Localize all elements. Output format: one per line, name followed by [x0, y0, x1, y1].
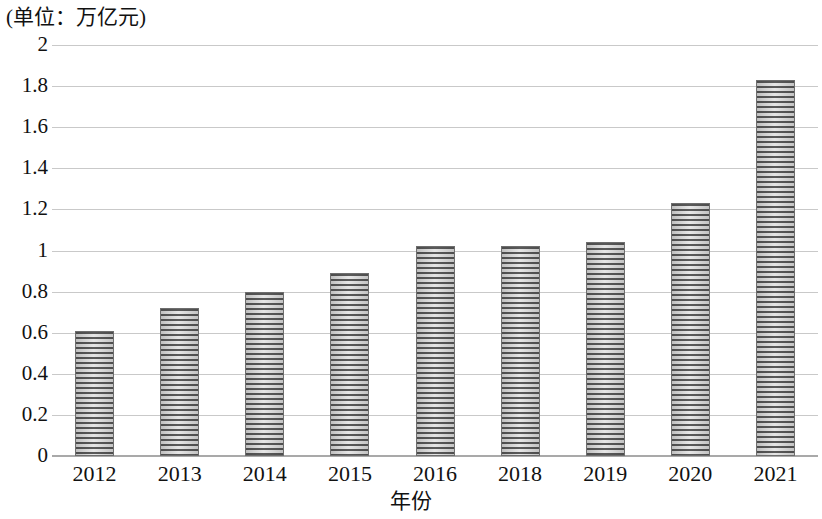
y-tick-label: 1.2: [2, 198, 48, 219]
bar-2015: [330, 273, 369, 456]
y-tick-label: 0.4: [2, 363, 48, 384]
y-tick-label: 2: [2, 34, 48, 55]
x-tick-label-2012: 2012: [55, 459, 135, 489]
y-tick-label: 0.8: [2, 281, 48, 302]
bar-2019: [586, 242, 625, 456]
y-tick-label: 1.8: [2, 75, 48, 96]
x-tick-label-2015: 2015: [310, 459, 390, 489]
y-tick-label: 1: [2, 240, 48, 261]
bar-2014: [245, 292, 284, 456]
y-tick-label: 0: [2, 445, 48, 466]
x-tick-label-2016: 2016: [395, 459, 475, 489]
y-axis-tick-labels: 21.81.61.41.210.80.60.40.20: [0, 45, 48, 456]
y-tick-label: 1.6: [2, 116, 48, 137]
y-tick-label: 1.4: [2, 157, 48, 178]
bar-2020: [671, 203, 710, 456]
x-tick-label-2013: 2013: [140, 459, 220, 489]
x-axis-title: 年份: [0, 487, 822, 515]
x-tick-label-2014: 2014: [225, 459, 305, 489]
chart-unit-title: (单位：万亿元): [6, 4, 146, 30]
bar-2012: [75, 331, 114, 456]
bar-chart-figure: (单位：万亿元) 21.81.61.41.210.80.60.40.20 201…: [0, 0, 822, 519]
y-tick-label: 0.6: [2, 322, 48, 343]
bar-2021: [756, 80, 795, 456]
x-tick-label-2018: 2018: [480, 459, 560, 489]
x-tick-label-2019: 2019: [565, 459, 645, 489]
x-tick-label-2020: 2020: [650, 459, 730, 489]
bar-2016: [416, 246, 455, 456]
bar-2018: [501, 246, 540, 456]
y-tick-label: 0.2: [2, 404, 48, 425]
bars-layer: [52, 45, 818, 456]
x-tick-label-2021: 2021: [735, 459, 815, 489]
bar-2013: [160, 308, 199, 456]
